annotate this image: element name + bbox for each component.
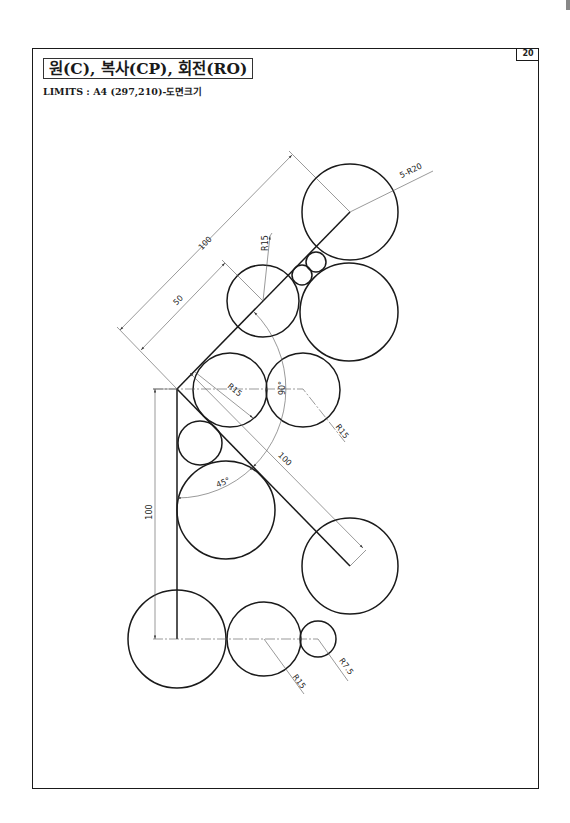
angle-90-label: 90° bbox=[278, 381, 287, 395]
leader-r15-upper: R15 bbox=[261, 233, 272, 301]
angle-45-dimension: 45° bbox=[177, 467, 253, 498]
circle-small-tangent-2 bbox=[306, 252, 326, 272]
cad-drawing: 100 50 R15 5-R20 R15 R15 90° bbox=[0, 0, 570, 823]
angle-90-dimension: 90° bbox=[253, 312, 287, 467]
circle-small-tangent-1 bbox=[292, 265, 312, 285]
r15-bottom-label: R15 bbox=[291, 673, 308, 691]
dimension-100-vertical: 100 bbox=[145, 389, 177, 639]
circle-r20-upper-right bbox=[300, 263, 398, 361]
leader-r7-5-bottom: R7.5 bbox=[318, 639, 355, 681]
angle-45-label: 45° bbox=[215, 476, 232, 490]
centerlines bbox=[153, 389, 345, 639]
dim-100-vertical-label: 100 bbox=[145, 504, 154, 519]
r15-right-label: R15 bbox=[334, 422, 351, 440]
dim-100-diagonal-label: 100 bbox=[276, 451, 293, 468]
leader-r15-inner: R15 bbox=[195, 372, 253, 418]
r15-inner-label: R15 bbox=[226, 382, 244, 399]
object-lines bbox=[177, 212, 350, 639]
centerline-upper bbox=[153, 389, 345, 442]
dimension-100-diagonal: 100 bbox=[190, 373, 366, 566]
dim-50-label: 50 bbox=[171, 293, 185, 307]
r7-5-label: R7.5 bbox=[337, 656, 355, 676]
dimension-50: 50 bbox=[141, 260, 263, 350]
r15-upper-label: R15 bbox=[261, 235, 270, 251]
circle-small-left bbox=[178, 421, 222, 465]
drawing-sheet: 20 원(C), 복사(CP), 회전(RO) LIMITS : A4 (297… bbox=[0, 0, 570, 823]
